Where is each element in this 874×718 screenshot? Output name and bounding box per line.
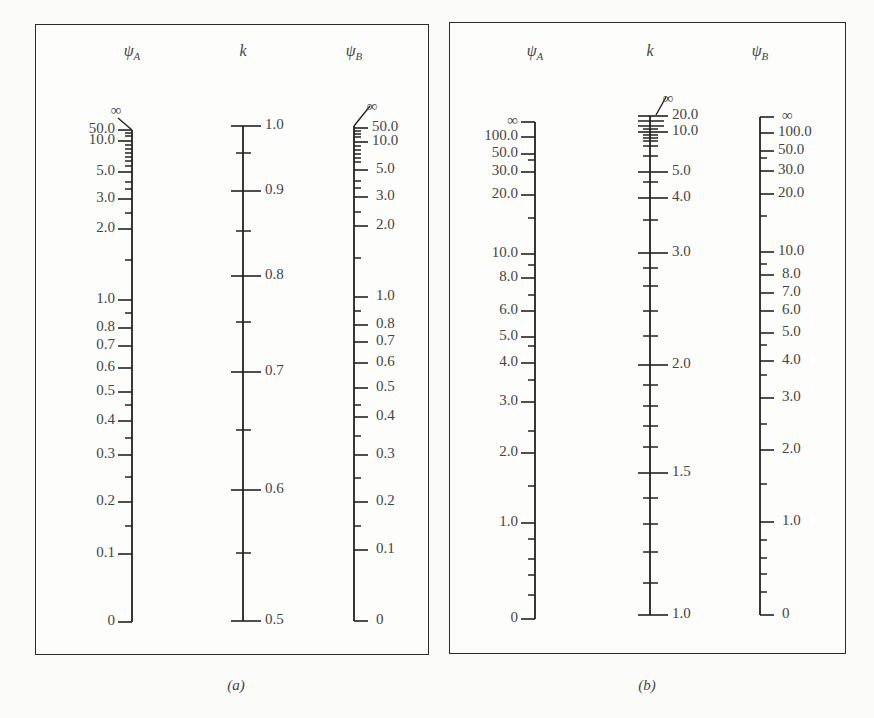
tick-label: 0 [782, 605, 790, 621]
tick-label: ∞ [507, 112, 518, 128]
tick-label: 0.1 [96, 544, 115, 560]
tick-label: 0.2 [376, 492, 395, 508]
infinity-label: ∞ [367, 98, 378, 114]
tick-label: 0.3 [376, 445, 395, 461]
tick-label: 50.0 [492, 144, 518, 160]
tick-label: 0.7 [265, 362, 284, 378]
tick-label: 10.0 [372, 132, 398, 148]
tick-label: 1.0 [96, 290, 115, 306]
tick-label: 10.0 [672, 122, 698, 138]
tick-label: 0.5 [376, 378, 395, 394]
tick-label: 4.0 [782, 351, 801, 367]
tick-label: 1.0 [782, 512, 801, 528]
tick-label: 5.0 [672, 162, 691, 178]
tick-label: 2.0 [499, 443, 518, 459]
tick-label: 5.0 [499, 327, 518, 343]
tick-label: 2.0 [782, 440, 801, 456]
tick-label: 2.0 [96, 219, 115, 235]
tick-label: 0 [376, 611, 384, 627]
tick-label: 0 [108, 612, 116, 628]
tick-label: 3.0 [782, 388, 801, 404]
tick-label: 5.0 [782, 323, 801, 339]
tick-label: 5.0 [376, 160, 395, 176]
tick-label: 3.0 [96, 189, 115, 205]
tick-label: 10.0 [492, 244, 518, 260]
tick-label: 0.2 [96, 492, 115, 508]
nomograph-svg: ψA50.010.05.03.02.01.00.80.70.60.50.40.3… [0, 0, 874, 718]
tick-label: 0.6 [376, 353, 395, 369]
tick-label: 6.0 [782, 301, 801, 317]
tick-label: 3.0 [499, 392, 518, 408]
tick-label: 2.0 [376, 216, 395, 232]
tick-label: 4.0 [499, 353, 518, 369]
axis-header-k: k [239, 42, 247, 59]
tick-label: 50.0 [778, 141, 804, 157]
axis-header-psi_A: ψA [124, 42, 141, 62]
tick-label: 3.0 [376, 187, 395, 203]
tick-label: 0.4 [96, 411, 115, 427]
axis-header-psi_B: ψB [752, 42, 769, 62]
tick-label: 8.0 [499, 268, 518, 284]
tick-label: 7.0 [782, 283, 801, 299]
infinity-label: ∞ [111, 102, 122, 118]
tick-label: 2.0 [672, 355, 691, 371]
tick-label: 8.0 [782, 265, 801, 281]
tick-label: 4.0 [672, 188, 691, 204]
tick-label: 5.0 [96, 162, 115, 178]
tick-label: 30.0 [778, 161, 804, 177]
tick-label: 1.0 [499, 513, 518, 529]
axis-header-psi_B: ψB [346, 42, 363, 62]
tick-label: 1.0 [376, 287, 395, 303]
tick-label: 3.0 [672, 243, 691, 259]
tick-label: 0.9 [265, 181, 284, 197]
tick-label: 0.3 [96, 445, 115, 461]
tick-label: 1.5 [672, 463, 691, 479]
infinity-leader [118, 118, 132, 130]
tick-label: 100.0 [484, 127, 518, 143]
infinity-label: ∞ [663, 90, 674, 106]
tick-label: 100.0 [778, 123, 812, 139]
tick-label: ∞ [782, 107, 793, 123]
caption-b: (b) [638, 677, 656, 694]
tick-label: 0.5 [96, 382, 115, 398]
tick-label: 0.8 [376, 315, 395, 331]
tick-label: 10.0 [778, 242, 804, 258]
tick-label: 0.4 [376, 407, 395, 423]
tick-label: 0.7 [376, 332, 395, 348]
tick-label: 0.6 [265, 480, 284, 496]
tick-label: 0.1 [376, 540, 395, 556]
tick-label: 0.7 [96, 336, 115, 352]
tick-label: 0.6 [96, 358, 115, 374]
tick-label: 0.8 [96, 318, 115, 334]
tick-label: 0.8 [265, 266, 284, 282]
tick-label: 10.0 [89, 131, 115, 147]
axis-header-psi_A: ψA [527, 42, 544, 62]
tick-label: 20.0 [672, 106, 698, 122]
caption-a: (a) [227, 677, 245, 694]
tick-label: 1.0 [672, 605, 691, 621]
tick-label: 0.5 [265, 611, 284, 627]
tick-label: 20.0 [778, 184, 804, 200]
tick-label: 30.0 [492, 162, 518, 178]
tick-label: 6.0 [499, 301, 518, 317]
tick-label: 0 [511, 609, 519, 625]
tick-label: 1.0 [265, 116, 284, 132]
axis-header-k: k [646, 42, 654, 59]
tick-label: 20.0 [492, 185, 518, 201]
